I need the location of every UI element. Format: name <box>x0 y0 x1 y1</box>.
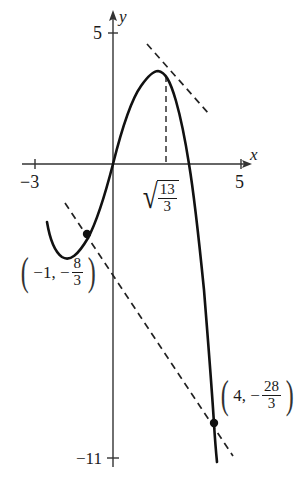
y-tick-label-neg11: −11 <box>76 450 102 467</box>
x-axis-label: x <box>250 146 258 163</box>
point-label-neg1: ( −1, − 8 3 ) <box>18 252 98 292</box>
fraction-denominator: 3 <box>163 199 171 215</box>
fraction-numerator: 28 <box>262 379 281 396</box>
point-label-text: 4, − <box>233 387 260 404</box>
y-axis <box>107 10 119 467</box>
sqrt-13-3-label: √ 13 3 <box>141 180 179 215</box>
x-tick-label-5: 5 <box>235 173 244 191</box>
point-neg1 <box>83 230 91 238</box>
right-paren: ) <box>88 252 96 292</box>
x-axis <box>22 159 252 169</box>
fraction-numerator: 13 <box>158 182 177 199</box>
point-4 <box>210 419 218 427</box>
left-paren: ( <box>221 375 229 415</box>
x-tick-label-neg3: −3 <box>20 173 39 191</box>
fraction-8-3: 8 3 <box>72 256 84 289</box>
y-axis-label: y <box>119 8 127 25</box>
fraction-denominator: 3 <box>74 273 82 289</box>
point-label-4: ( 4, − 28 3 ) <box>218 375 296 415</box>
fraction-numerator: 8 <box>72 256 84 273</box>
function-graph <box>0 0 306 491</box>
fraction-denominator: 3 <box>268 396 276 412</box>
point-label-text: −1, − <box>33 264 69 281</box>
left-paren: ( <box>21 252 29 292</box>
fraction-13-3: 13 3 <box>158 182 177 215</box>
radicand: 13 3 <box>157 180 179 215</box>
right-paren: ) <box>286 375 294 415</box>
fraction-28-3: 28 3 <box>262 379 281 412</box>
radical-sign: √ <box>143 180 158 214</box>
y-tick-label-5: 5 <box>93 24 102 42</box>
